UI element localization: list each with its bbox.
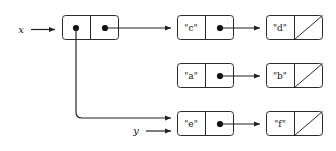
cons-cell-d: "d" [267, 16, 323, 40]
cons-cell-a-value: "a" [184, 71, 198, 81]
variable-label-y: y [132, 125, 139, 136]
cons-cell-b-value: "b" [273, 71, 287, 81]
variable-label-x: x [18, 24, 24, 35]
cons-cell-f: "f" [267, 112, 323, 136]
diagram-canvas: x "c" "d" [0, 0, 336, 151]
cons-cell-f-value: "f" [274, 119, 286, 129]
cons-cell-e-value: "e" [184, 119, 198, 129]
cons-cell-b: "b" [267, 64, 323, 88]
cons-cell-d-value: "d" [273, 23, 287, 33]
cons-cell-c-value: "c" [184, 23, 197, 33]
box-and-pointer-diagram: x "c" "d" [0, 0, 336, 151]
arrow-root-car-to-e [76, 28, 171, 118]
